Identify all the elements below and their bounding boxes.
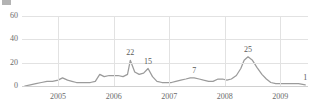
x-tick-label-2007: 2007 [149,92,189,101]
gridline-horizontal-60 [22,16,308,17]
gridline-vertical-2005 [58,16,59,86]
x-tick-label-2008: 2008 [205,92,245,101]
data-label-15: 15 [140,58,156,66]
gridline-horizontal-40 [22,39,308,40]
gridline-vertical-2006 [114,16,115,86]
gridline-horizontal-20 [22,63,308,64]
y-tick-label-60: 60 [0,12,18,20]
series-line [22,16,308,86]
data-label-1: 1 [297,74,312,82]
x-tick-label-2006: 2006 [94,92,134,101]
plot-area [22,16,308,86]
legend-swatch-icon [2,0,11,5]
gridline-horizontal-0 [22,86,308,87]
gridline-vertical-2009 [280,16,281,86]
y-tick-label-0: 0 [0,82,18,90]
data-label-7: 7 [186,67,202,75]
x-tick-label-2009: 2009 [260,92,300,101]
y-tick-label-40: 40 [0,35,18,43]
legend [0,0,312,7]
data-label-22: 22 [122,49,138,57]
data-label-25: 25 [240,46,256,54]
y-tick-label-20: 20 [0,59,18,67]
chart-container: 60 40 20 0 2005 2006 2007 2008 2009 2215… [0,0,312,112]
x-tick-label-2005: 2005 [38,92,78,101]
gridline-vertical-2007 [169,16,170,86]
gridline-vertical-2008 [225,16,226,86]
series-path [25,57,305,86]
